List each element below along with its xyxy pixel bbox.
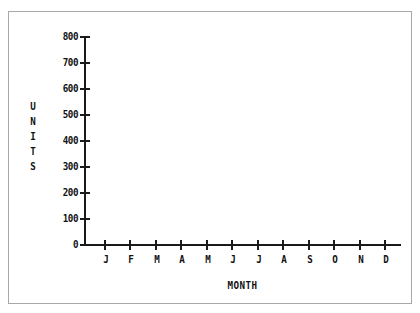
y-axis-tick-label: 200 (47, 188, 78, 198)
y-axis-tick-label: 100 (47, 214, 78, 224)
x-axis-tick-label: M (202, 254, 215, 265)
x-axis-tick-label: S (304, 254, 317, 265)
x-axis-tick (104, 240, 106, 250)
x-axis-tick-label: J (253, 254, 266, 265)
y-axis-tick-label: 500 (47, 110, 78, 120)
y-axis-title: U N I T S (27, 99, 39, 174)
x-axis-tick (206, 240, 208, 250)
x-axis-tick-label: A (278, 254, 291, 265)
y-axis-title-letter: U (27, 99, 38, 114)
x-axis-tick-label: N (355, 254, 368, 265)
x-axis-tick (384, 240, 386, 250)
x-axis-tick (155, 240, 157, 250)
y-axis-tick-label: 0 (47, 240, 78, 250)
chart-figure: U N I T S 800 700 600 500 400 300 200 10… (0, 0, 420, 313)
y-axis-tick-label: 600 (47, 84, 78, 94)
y-axis-title-letter: N (27, 114, 38, 129)
plot-area (86, 36, 401, 244)
x-axis-tick (333, 240, 335, 250)
y-axis-tick-label: 300 (47, 162, 78, 172)
x-axis-tick (129, 240, 131, 250)
y-axis-tick-label: 400 (47, 136, 78, 146)
y-axis-tick-label: 800 (47, 32, 78, 42)
x-axis-tick-label: O (329, 254, 342, 265)
x-axis-tick (282, 240, 284, 250)
y-axis-tick-label: 700 (47, 58, 78, 68)
x-axis-tick-label: J (100, 254, 113, 265)
x-axis-tick-label: A (176, 254, 189, 265)
x-axis-tick-label: F (125, 254, 138, 265)
x-axis-tick (359, 240, 361, 250)
x-axis-tick-label: D (380, 254, 393, 265)
y-axis-title-letter: S (27, 159, 38, 174)
x-axis-title: MONTH (97, 280, 389, 291)
y-axis-title-letter: I (27, 129, 38, 144)
x-axis-tick (180, 240, 182, 250)
x-axis-tick-label: M (151, 254, 164, 265)
x-axis-tick (257, 240, 259, 250)
y-axis-title-letter: T (27, 144, 38, 159)
x-axis-tick (231, 240, 233, 250)
x-axis-tick-label: J (227, 254, 240, 265)
x-axis-tick (308, 240, 310, 250)
x-axis-line (84, 244, 401, 246)
